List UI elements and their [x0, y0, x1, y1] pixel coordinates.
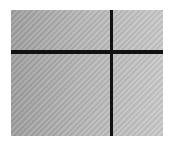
textured-panel: [11, 10, 163, 136]
horizontal-divider-line: [11, 50, 163, 54]
vertical-divider-line: [110, 10, 113, 136]
